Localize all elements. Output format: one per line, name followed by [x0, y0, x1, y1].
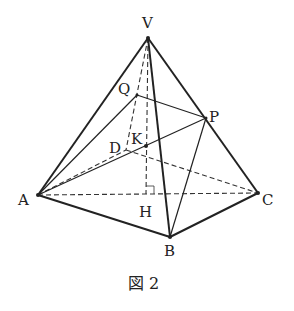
label-A: A	[17, 191, 29, 209]
label-H: H	[139, 203, 152, 221]
point-B	[168, 235, 172, 239]
edge-AQ	[38, 95, 137, 195]
point-V	[146, 36, 150, 40]
figure-caption: 図 2	[128, 274, 159, 293]
label-C: C	[262, 191, 273, 209]
edge-VC	[148, 38, 258, 193]
edge-BC	[170, 193, 258, 237]
label-B: B	[164, 242, 175, 260]
label-K: K	[131, 130, 143, 148]
point-K	[144, 144, 148, 148]
point-C	[256, 191, 260, 195]
point-A	[36, 193, 40, 197]
edge-AC	[38, 193, 258, 195]
label-P: P	[209, 108, 219, 126]
edge-PB	[170, 118, 206, 237]
right-angle-mark	[146, 186, 154, 194]
point-P	[205, 117, 208, 120]
edge-VA	[38, 38, 148, 195]
pyramid-diagram: V Q P K D A H C B 図 2	[0, 0, 294, 311]
edge-AP	[38, 118, 206, 195]
label-D: D	[109, 139, 121, 157]
label-V: V	[141, 14, 154, 32]
point-Q	[136, 94, 139, 97]
label-Q: Q	[118, 80, 130, 98]
edge-VH	[146, 38, 148, 194]
